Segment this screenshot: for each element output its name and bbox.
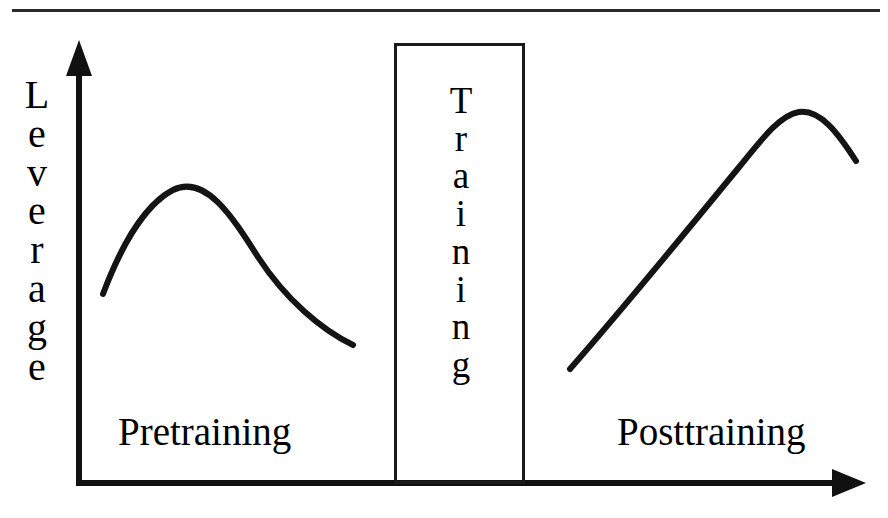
x-axis-arrow-icon [832,469,866,497]
training-label-char: n [452,308,471,346]
y-axis-label-char: e [28,115,46,154]
y-axis-arrow-icon [66,40,92,76]
y-axis-label-char: e [28,348,46,387]
training-label-char: n [452,233,471,271]
figure-root: L e v e r a g e T r a i n i n g Pretrain… [0,0,888,518]
training-label-char: i [456,271,466,309]
training-label-char: T [450,82,473,120]
pretraining-phase-label: Pretraining [118,409,291,454]
posttraining-phase-label: Posttraining [617,409,806,454]
training-label-char: a [453,157,469,195]
y-axis-label-char: L [25,76,49,115]
y-axis-label-char: v [27,154,47,193]
pretraining-curve [103,187,353,345]
training-label-char: i [456,195,466,233]
posttraining-curve [570,112,856,369]
training-label-char: r [455,120,467,158]
y-axis-label-char: a [28,270,46,309]
y-axis-label-char: g [27,309,47,348]
training-phase-label: T r a i n i n g [430,82,492,384]
y-axis-label: L e v e r a g e [14,76,60,386]
training-label-char: g [452,346,471,384]
y-axis-label-char: e [28,192,46,231]
y-axis-label-char: r [30,231,43,270]
